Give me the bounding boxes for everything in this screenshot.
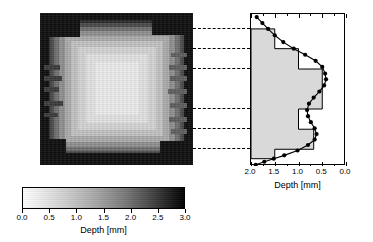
depth-band-9	[95, 62, 139, 115]
xtick-minor-bottom-2	[310, 164, 311, 166]
xtick-top-0	[251, 14, 252, 18]
depth-noise-patch	[44, 113, 58, 117]
colorbar-tick-label-2: 1.0	[64, 213, 88, 222]
connector-line-5	[193, 128, 250, 129]
xtick-bottom-2	[299, 162, 300, 166]
depth-map-image	[40, 13, 193, 165]
xtick-top-1	[275, 14, 276, 18]
depth-noise-patch	[40, 139, 66, 165]
depth-noise-patch	[44, 65, 60, 70]
depth-noise-patch	[152, 13, 193, 35]
depth-noise-patch	[160, 141, 193, 165]
xtick-bottom-0	[251, 162, 252, 166]
depth-noise-patch	[40, 13, 80, 37]
depth-noise-patch	[170, 76, 187, 81]
axis-tick-layer	[251, 14, 346, 166]
profile-xtick-label-1: 1.5	[261, 167, 287, 176]
xtick-minor-bottom-0	[263, 164, 264, 166]
connector-line-2	[193, 48, 250, 49]
xtick-bottom-4	[346, 162, 347, 166]
colorbar-tick-label-3: 1.5	[92, 213, 116, 222]
depth-noise-patch	[171, 129, 187, 134]
colorbar-tick-label-4: 2.0	[119, 213, 143, 222]
profile-xtick-label-3: 0.5	[308, 167, 334, 176]
xtick-bottom-1	[275, 162, 276, 166]
connector-line-3	[193, 68, 250, 69]
depth-noise-patch	[44, 76, 62, 81]
xtick-minor-bottom-1	[287, 164, 288, 166]
connector-line-4	[193, 108, 250, 109]
depth-noise-patch	[171, 53, 187, 57]
xtick-minor-bottom-3	[334, 164, 335, 166]
colorbar-tick-label-1: 0.5	[37, 213, 61, 222]
depth-noise-patch	[169, 117, 187, 122]
depth-profile-plot	[250, 13, 345, 165]
xtick-top-3	[322, 14, 323, 18]
profile-axis-label: Depth [mm]	[250, 180, 345, 190]
xtick-minor-top-0	[263, 14, 264, 16]
connector-line-6	[193, 148, 250, 149]
depth-noise-patch	[169, 65, 187, 70]
xtick-minor-top-2	[310, 14, 311, 16]
depth-noise-patch	[168, 89, 187, 94]
colorbar-tick-label-5: 2.5	[146, 213, 170, 222]
colorbar-tick-label-0: 0.0	[10, 213, 34, 222]
depth-noise-patch	[44, 87, 59, 92]
figure-root: 2.01.51.00.50.0 Depth [mm] 0.00.51.01.52…	[0, 0, 373, 242]
profile-xtick-label-0: 2.0	[237, 167, 263, 176]
colorbar-tick-label-6: 3.0	[173, 213, 197, 222]
depth-noise-patch	[44, 101, 63, 106]
colorbar-texture	[23, 188, 184, 208]
colorbar-axis-label: Depth [mm]	[22, 225, 185, 235]
connector-line-1	[193, 28, 250, 29]
colorbar	[22, 187, 185, 209]
profile-xtick-label-4: 0.0	[332, 167, 358, 176]
xtick-bottom-3	[322, 162, 323, 166]
xtick-top-4	[346, 14, 347, 18]
xtick-minor-top-3	[334, 14, 335, 16]
depth-noise-patch	[170, 103, 187, 108]
xtick-top-2	[299, 14, 300, 18]
xtick-minor-top-1	[287, 14, 288, 16]
profile-xtick-label-2: 1.0	[285, 167, 311, 176]
